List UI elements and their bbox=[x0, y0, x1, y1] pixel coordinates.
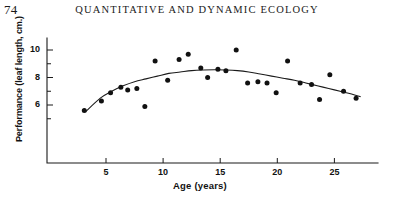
axis-lines bbox=[47, 38, 378, 163]
figure-page: 74 QUANTITATIVE AND DYNAMIC ECOLOGY Perf… bbox=[0, 0, 394, 206]
data-point bbox=[223, 68, 228, 73]
running-head: QUANTITATIVE AND DYNAMIC ECOLOGY bbox=[0, 4, 394, 15]
data-point bbox=[134, 86, 139, 91]
x-tick-label: 5 bbox=[96, 167, 116, 177]
data-point bbox=[125, 87, 130, 92]
data-point bbox=[285, 59, 290, 64]
y-tick-label: 6 bbox=[24, 99, 40, 109]
data-point bbox=[354, 96, 359, 101]
data-point bbox=[99, 98, 104, 103]
data-point bbox=[153, 59, 158, 64]
data-point bbox=[82, 108, 87, 113]
data-point bbox=[298, 81, 303, 86]
y-tick-label: 8 bbox=[24, 72, 40, 82]
x-tick-label: 25 bbox=[324, 167, 344, 177]
x-tick-label: 20 bbox=[267, 167, 287, 177]
data-point bbox=[317, 97, 322, 102]
x-tick-label: 10 bbox=[153, 167, 173, 177]
data-point bbox=[108, 90, 113, 95]
data-point bbox=[327, 72, 332, 77]
data-point bbox=[165, 78, 170, 83]
scatter-figure: Performance (leaf length, cm.) Age (year… bbox=[0, 22, 394, 206]
data-point bbox=[177, 57, 182, 62]
data-point bbox=[309, 82, 314, 87]
data-point bbox=[265, 81, 270, 86]
data-point bbox=[215, 67, 220, 72]
data-point bbox=[341, 89, 346, 94]
plot-canvas bbox=[0, 22, 394, 206]
y-tick-label: 10 bbox=[24, 44, 40, 54]
data-points bbox=[82, 48, 359, 114]
data-point bbox=[142, 104, 147, 109]
data-point bbox=[255, 79, 260, 84]
data-point bbox=[234, 48, 239, 53]
data-point bbox=[118, 85, 123, 90]
data-point bbox=[274, 90, 279, 95]
data-point bbox=[205, 75, 210, 80]
tick-marks bbox=[47, 50, 334, 163]
x-tick-label: 15 bbox=[210, 167, 230, 177]
data-point bbox=[186, 52, 191, 57]
data-point bbox=[198, 65, 203, 70]
axes bbox=[47, 38, 378, 163]
data-point bbox=[245, 81, 250, 86]
